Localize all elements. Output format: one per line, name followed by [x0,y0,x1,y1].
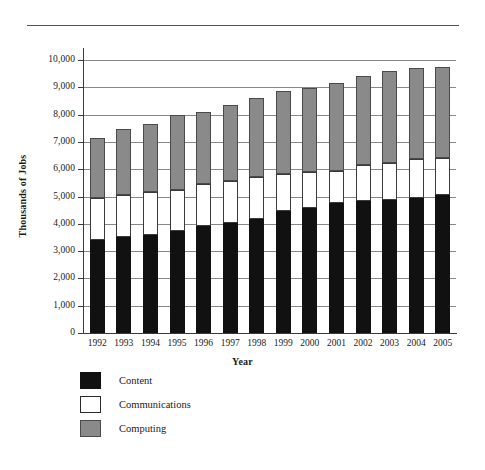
bar-segment-computing[interactable] [170,115,185,190]
x-axis-tick-label: 1992 [84,339,111,349]
bar-segment-computing[interactable] [223,105,238,181]
x-axis-tick-label: 1996 [190,339,217,349]
bar-group[interactable] [302,60,317,333]
x-axis-title: Year [0,356,485,367]
bar-segment-computing[interactable] [90,138,105,198]
y-axis-tick-label: 0 [70,328,75,338]
y-axis-tick-label: 6,000 [53,164,75,174]
y-axis-tick-label: 1,000 [53,301,75,311]
x-axis-tick-label: 1998 [243,339,270,349]
x-axis-tick-label: 2001 [323,339,350,349]
bar-segment-computing[interactable] [409,68,424,159]
bar-segment-communications[interactable] [435,158,450,195]
bar-segment-computing[interactable] [143,124,158,192]
y-axis-tick-label: 5,000 [53,192,75,202]
y-axis-tick-label: 9,000 [53,83,75,93]
bar-group[interactable] [329,60,344,333]
x-axis-line [83,333,457,334]
bar-segment-computing[interactable] [116,129,131,195]
y-axis-tick-label: 3,000 [53,246,75,256]
bar-group[interactable] [143,60,158,333]
legend-swatch-computing [80,420,101,437]
bar-segment-computing[interactable] [249,98,264,177]
legend-item[interactable]: Content [80,368,191,392]
bar-segment-content[interactable] [302,208,317,333]
bar-segment-communications[interactable] [276,174,291,212]
bar-group[interactable] [196,60,211,333]
x-axis-tick-label: 2005 [429,339,456,349]
legend-swatch-communications [80,396,101,413]
y-axis-tick-label: 7,000 [53,137,75,147]
y-axis-tick [78,333,84,334]
bar-segment-computing[interactable] [356,76,371,164]
bar-series-layer [84,60,456,333]
legend-swatch-content [80,372,101,389]
bar-group[interactable] [223,60,238,333]
bar-segment-content[interactable] [223,223,238,333]
x-axis-tick-label: 2003 [376,339,403,349]
bar-segment-content[interactable] [435,195,450,333]
chart-page: Thousands of Jobs 10,0009,0008,0007,0006… [0,0,485,470]
bar-segment-content[interactable] [382,200,397,333]
legend-item[interactable]: Computing [80,416,191,440]
bar-group[interactable] [276,60,291,333]
bar-segment-communications[interactable] [302,172,317,208]
bar-group[interactable] [356,60,371,333]
bar-segment-computing[interactable] [435,67,450,158]
bar-segment-content[interactable] [409,198,424,333]
y-axis-tick-label: 8,000 [53,110,75,120]
bar-group[interactable] [170,60,185,333]
bar-segment-communications[interactable] [196,184,211,226]
bar-segment-communications[interactable] [143,192,158,235]
x-axis-tick-label: 1993 [111,339,138,349]
legend-label: Content [119,375,152,386]
bar-group[interactable] [249,60,264,333]
bar-segment-content[interactable] [356,201,371,333]
bar-segment-computing[interactable] [196,112,211,185]
x-axis-tick-label: 2002 [350,339,377,349]
y-axis-tick-label: 2,000 [53,274,75,284]
legend-label: Computing [119,423,166,434]
bar-group[interactable] [116,60,131,333]
bar-segment-communications[interactable] [170,190,185,231]
bar-segment-communications[interactable] [329,171,344,202]
plot-area: 10,0009,0008,0007,0006,0005,0004,0003,00… [84,60,456,333]
x-axis-tick-label: 1997 [217,339,244,349]
bar-group[interactable] [409,60,424,333]
bar-group[interactable] [90,60,105,333]
top-divider-rule [27,25,459,26]
bar-segment-communications[interactable] [90,198,105,240]
chart-legend: ContentCommunicationsComputing [80,368,191,440]
x-axis-tick-label: 1999 [270,339,297,349]
bar-segment-communications[interactable] [409,159,424,198]
bar-group[interactable] [382,60,397,333]
bar-segment-communications[interactable] [116,195,131,238]
bar-segment-content[interactable] [249,219,264,333]
legend-item[interactable]: Communications [80,392,191,416]
bar-segment-content[interactable] [329,203,344,333]
bar-segment-content[interactable] [90,240,105,333]
x-axis-tick-label: 2004 [403,339,430,349]
y-axis-title: Thousands of Jobs [17,155,28,238]
bar-segment-communications[interactable] [249,177,264,220]
bar-segment-computing[interactable] [276,91,291,173]
bar-segment-content[interactable] [276,211,291,333]
x-axis-tick-label: 1994 [137,339,164,349]
bar-segment-computing[interactable] [302,88,317,171]
y-axis-tick-label: 4,000 [53,219,75,229]
bar-segment-communications[interactable] [382,163,397,200]
bar-segment-computing[interactable] [382,71,397,163]
bar-segment-communications[interactable] [223,181,238,223]
bar-segment-content[interactable] [196,226,211,333]
bar-segment-communications[interactable] [356,165,371,201]
bar-segment-computing[interactable] [329,83,344,171]
bar-group[interactable] [435,60,450,333]
bar-segment-content[interactable] [116,237,131,333]
bar-segment-content[interactable] [170,231,185,333]
x-axis-tick-label: 2000 [297,339,324,349]
legend-label: Communications [119,399,191,410]
x-axis-tick-label: 1995 [164,339,191,349]
bar-segment-content[interactable] [143,235,158,333]
y-axis-tick-label: 10,000 [48,55,75,65]
